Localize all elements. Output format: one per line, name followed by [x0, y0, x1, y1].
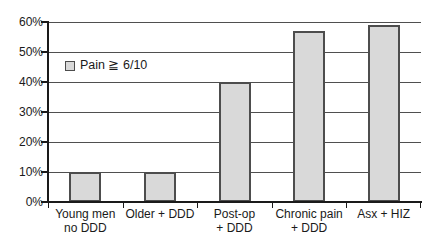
legend: Pain ≧ 6/10 — [65, 59, 147, 72]
x-axis-tick — [420, 203, 421, 208]
x-category-label: Older + DDD — [123, 207, 198, 235]
x-axis-labels: Young men no DDDOlder + DDDPost-op + DDD… — [48, 207, 421, 235]
y-tick-label: 40% — [0, 76, 43, 88]
gridline — [48, 22, 421, 23]
x-axis — [47, 201, 422, 203]
y-tick-label: 20% — [0, 136, 43, 148]
gridline — [48, 52, 421, 53]
y-tick-label: 50% — [0, 46, 43, 58]
x-axis-tick — [272, 203, 273, 208]
y-tick-label: 30% — [0, 106, 43, 118]
y-tick-label: 0% — [0, 196, 43, 208]
bar-1 — [69, 172, 101, 202]
y-tick-label: 10% — [0, 166, 43, 178]
x-axis-tick — [123, 203, 124, 208]
x-category-label: Post-op + DDD — [197, 207, 272, 235]
bar-2 — [144, 172, 176, 202]
legend-swatch-icon — [65, 61, 75, 71]
y-tick-label: 60% — [0, 16, 43, 28]
bar-4 — [293, 31, 325, 202]
bar-3 — [219, 82, 251, 202]
legend-label: Pain ≧ 6/10 — [80, 59, 147, 72]
x-category-label: Chronic pain + DDD — [272, 207, 347, 235]
plot-area — [48, 22, 421, 202]
x-category-label: Young men no DDD — [48, 207, 123, 235]
bar-5 — [368, 25, 400, 202]
x-axis-tick — [48, 203, 49, 208]
x-category-label: Asx + HIZ — [346, 207, 421, 235]
x-axis-tick — [346, 203, 347, 208]
x-axis-tick — [197, 203, 198, 208]
bar-chart: Pain ≧ 6/10 Young men no DDDOlder + DDDP… — [0, 0, 436, 250]
